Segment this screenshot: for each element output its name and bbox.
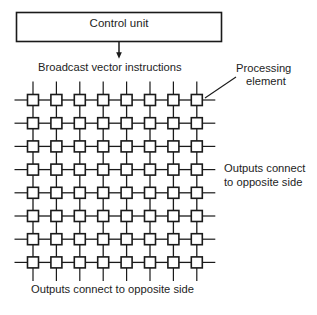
processing-element-node: [98, 234, 109, 245]
processing-element-node: [191, 257, 202, 268]
processing-element-node: [168, 234, 179, 245]
processing-element-node: [191, 164, 202, 175]
processing-element-node: [28, 164, 39, 175]
processing-element-node: [145, 118, 156, 129]
processing-element-node: [191, 187, 202, 198]
processing-element-node: [51, 234, 62, 245]
processing-element-callout-line-2: element: [236, 75, 291, 88]
processing-element-node: [51, 118, 62, 129]
processing-element-node: [74, 187, 85, 198]
processing-element-node: [98, 95, 109, 106]
processing-element-node: [191, 234, 202, 245]
processing-element-node: [168, 187, 179, 198]
processing-element-node: [168, 95, 179, 106]
processing-element-node: [145, 95, 156, 106]
processing-element-callout-label: Processingelement: [236, 62, 291, 88]
processing-element-node: [121, 187, 132, 198]
processing-element-node: [28, 211, 39, 222]
processing-element-node: [28, 234, 39, 245]
processing-element-node: [191, 118, 202, 129]
processing-element-node: [145, 211, 156, 222]
processing-element-node: [74, 95, 85, 106]
processing-element-node: [191, 95, 202, 106]
outputs-right-label: Outputs connectto opposite side: [224, 162, 305, 189]
processing-element-node: [168, 211, 179, 222]
outputs-right-line-2: to opposite side: [224, 176, 302, 188]
control-unit-label: Control unit: [16, 17, 222, 31]
processing-element-node: [74, 118, 85, 129]
processing-element-node: [74, 141, 85, 152]
processing-element-node: [28, 257, 39, 268]
processing-element-node: [121, 141, 132, 152]
processing-element-node: [51, 187, 62, 198]
processing-element-node: [98, 187, 109, 198]
processing-element-node: [51, 95, 62, 106]
processing-element-node: [98, 141, 109, 152]
simd-array-diagram: Control unit Broadcast vector instructio…: [0, 0, 317, 315]
processing-element-mesh: [15, 82, 216, 281]
broadcast-instructions-label: Broadcast vector instructions: [38, 61, 182, 74]
processing-element-callout-line-1: Processing: [236, 62, 291, 74]
processing-element-node: [74, 234, 85, 245]
processing-element-node: [74, 164, 85, 175]
processing-element-node: [98, 164, 109, 175]
processing-element-node: [191, 141, 202, 152]
processing-element-node: [121, 164, 132, 175]
processing-element-node: [145, 164, 156, 175]
processing-element-node: [121, 257, 132, 268]
processing-element-node: [98, 211, 109, 222]
processing-element-node: [145, 187, 156, 198]
processing-element-node: [168, 257, 179, 268]
processing-element-node: [145, 234, 156, 245]
processing-element-node: [51, 257, 62, 268]
processing-element-leader-line: [205, 77, 236, 98]
processing-element-node: [168, 164, 179, 175]
processing-element-node: [121, 234, 132, 245]
processing-element-node: [191, 211, 202, 222]
processing-element-node: [121, 211, 132, 222]
processing-element-node: [51, 211, 62, 222]
outputs-bottom-label: Outputs connect to opposite side: [31, 283, 194, 296]
outputs-right-line-1: Outputs connect: [224, 162, 305, 174]
processing-element-node: [51, 141, 62, 152]
processing-element-node: [28, 187, 39, 198]
processing-element-node: [121, 118, 132, 129]
processing-element-node: [74, 257, 85, 268]
processing-element-node: [168, 118, 179, 129]
processing-element-node: [28, 118, 39, 129]
processing-element-node: [98, 118, 109, 129]
processing-element-node: [98, 257, 109, 268]
processing-element-node: [145, 141, 156, 152]
diagram-canvas: [0, 0, 317, 315]
processing-element-node: [51, 164, 62, 175]
processing-element-node: [121, 95, 132, 106]
processing-element-node: [28, 95, 39, 106]
processing-element-node: [28, 141, 39, 152]
processing-element-node: [74, 211, 85, 222]
processing-element-node: [145, 257, 156, 268]
processing-element-node: [168, 141, 179, 152]
